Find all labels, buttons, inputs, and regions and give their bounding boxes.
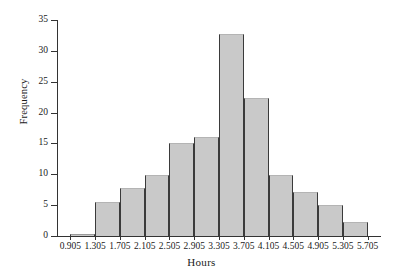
histogram-bar — [269, 175, 294, 236]
x-axis-tick-mark — [120, 236, 121, 240]
y-axis-title: Frequency — [18, 57, 29, 147]
x-axis-tick-mark — [70, 236, 71, 240]
x-axis-tick-mark — [95, 236, 96, 240]
histogram-bar — [145, 175, 170, 236]
histogram-figure: 05101520253035 0.9051.3051.7052.1052.505… — [0, 0, 403, 278]
x-axis-tick-mark — [318, 236, 319, 240]
y-axis-tick-label: 0 — [22, 231, 48, 241]
histogram-bar — [219, 34, 244, 236]
plot-area — [58, 20, 380, 236]
x-axis-tick-mark — [244, 236, 245, 240]
histogram-bar — [70, 234, 95, 236]
x-axis-tick-label: 5.705 — [348, 241, 388, 251]
histogram-bar — [95, 202, 120, 236]
x-axis-tick-mark — [194, 236, 195, 240]
histogram-bar — [343, 222, 368, 236]
histogram-bar — [244, 98, 269, 236]
y-axis-tick-label: 5 — [22, 200, 48, 210]
histogram-bar — [194, 137, 219, 236]
y-axis-tick-label: 10 — [22, 169, 48, 179]
y-axis-tick-label: 35 — [22, 15, 48, 25]
x-axis-tick-mark — [219, 236, 220, 240]
x-axis-tick-mark — [343, 236, 344, 240]
x-axis-tick-mark — [269, 236, 270, 240]
x-axis-tick-mark — [169, 236, 170, 240]
histogram-bar — [318, 205, 343, 236]
x-axis-tick-mark — [368, 236, 369, 240]
histogram-bar — [120, 188, 145, 236]
histogram-bar — [293, 192, 318, 236]
histogram-bar — [169, 143, 194, 236]
x-axis-title: Hours — [0, 256, 403, 268]
y-axis-tick-label: 30 — [22, 46, 48, 56]
x-axis-tick-mark — [145, 236, 146, 240]
x-axis-tick-mark — [293, 236, 294, 240]
